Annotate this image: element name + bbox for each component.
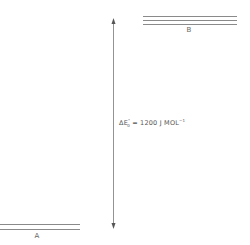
energy-level-a <box>0 223 80 231</box>
level-b-label: B <box>183 26 195 34</box>
level-a-label: A <box>31 232 43 240</box>
energy-value: = 1200 J MOL <box>130 119 179 127</box>
unit-exponent: −1 <box>179 118 185 123</box>
level-a-line-1 <box>0 224 80 225</box>
level-b-line-1 <box>143 16 237 17</box>
level-a-line-2 <box>0 229 80 230</box>
level-b-line-3 <box>143 24 237 25</box>
energy-gap-label: ΔE°0 = 1200 J MOL−1 <box>119 118 185 128</box>
level-b-line-2 <box>143 20 237 21</box>
